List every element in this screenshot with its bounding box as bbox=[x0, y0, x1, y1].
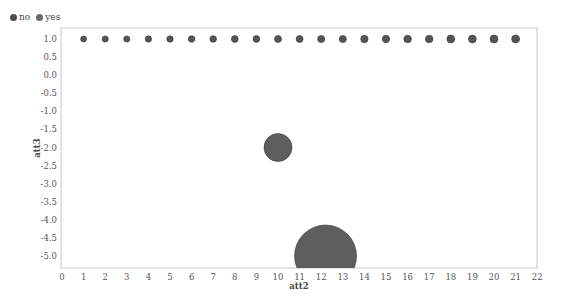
x-tick-label: 4 bbox=[146, 272, 151, 282]
y-tick-label: -2.5 bbox=[41, 161, 57, 171]
data-point-no[interactable] bbox=[447, 35, 455, 43]
data-point-no[interactable] bbox=[404, 35, 412, 43]
x-tick-label: 15 bbox=[381, 272, 392, 282]
x-tick-label: 5 bbox=[167, 272, 172, 282]
data-point-no[interactable] bbox=[210, 36, 217, 43]
data-point-no[interactable] bbox=[318, 35, 325, 42]
y-tick-label: -1.5 bbox=[41, 124, 57, 134]
x-tick-label: 16 bbox=[402, 272, 413, 282]
y-tick-label: -0.5 bbox=[41, 88, 57, 98]
x-tick-label: 20 bbox=[489, 272, 500, 282]
scatter-plot: 012345678910111213141516171819202122 1.0… bbox=[0, 0, 566, 301]
x-tick-label: 9 bbox=[254, 272, 259, 282]
y-tick-label: 0.5 bbox=[43, 52, 57, 62]
x-tick-label: 21 bbox=[510, 272, 521, 282]
y-tick-label: -4.5 bbox=[41, 233, 57, 243]
y-tick-label: -5.0 bbox=[41, 251, 57, 261]
y-axis: 1.00.50.0-0.5-1.0-1.5-2.0-2.5-3.0-3.5-4.… bbox=[41, 34, 57, 261]
y-tick-label: -3.0 bbox=[41, 179, 57, 189]
data-point-no[interactable] bbox=[490, 35, 498, 43]
data-point-no[interactable] bbox=[167, 36, 173, 42]
x-tick-label: 3 bbox=[124, 272, 129, 282]
data-point-no[interactable] bbox=[425, 35, 433, 43]
y-tick-label: -3.5 bbox=[41, 197, 57, 207]
data-point-no[interactable] bbox=[382, 35, 389, 42]
data-point-no[interactable] bbox=[339, 35, 346, 42]
x-tick-label: 12 bbox=[316, 272, 327, 282]
data-point-no[interactable] bbox=[361, 35, 368, 42]
x-tick-label: 14 bbox=[359, 272, 370, 282]
x-tick-label: 19 bbox=[467, 272, 478, 282]
data-point-no[interactable] bbox=[512, 35, 520, 43]
x-tick-label: 7 bbox=[210, 272, 215, 282]
x-tick-label: 8 bbox=[232, 272, 237, 282]
data-point-no[interactable] bbox=[231, 36, 238, 43]
x-tick-label: 17 bbox=[424, 272, 435, 282]
data-point-no[interactable] bbox=[102, 36, 108, 42]
x-tick-label: 18 bbox=[445, 272, 456, 282]
plot-area bbox=[61, 28, 537, 268]
x-tick-label: 10 bbox=[273, 272, 284, 282]
x-tick-label: 2 bbox=[102, 272, 107, 282]
x-tick-label: 0 bbox=[59, 272, 64, 282]
x-axis-label: att2 bbox=[289, 281, 308, 291]
y-tick-label: -2.0 bbox=[41, 143, 57, 153]
y-tick-label: 0.0 bbox=[43, 70, 57, 80]
data-point-no[interactable] bbox=[275, 36, 282, 43]
data-point-no[interactable] bbox=[253, 36, 260, 43]
data-point-yes[interactable] bbox=[264, 134, 292, 162]
y-tick-label: -1.0 bbox=[41, 106, 57, 116]
x-tick-label: 1 bbox=[81, 272, 86, 282]
x-tick-label: 6 bbox=[189, 272, 194, 282]
x-tick-label: 13 bbox=[337, 272, 348, 282]
data-point-no[interactable] bbox=[188, 36, 195, 43]
y-tick-label: 1.0 bbox=[43, 34, 57, 44]
data-point-no[interactable] bbox=[296, 36, 303, 43]
data-point-no[interactable] bbox=[469, 35, 477, 43]
y-tick-label: -4.0 bbox=[41, 215, 57, 225]
data-point-no[interactable] bbox=[124, 36, 130, 42]
data-point-no[interactable] bbox=[145, 36, 151, 42]
x-tick-label: 22 bbox=[532, 272, 543, 282]
y-axis-label: att3 bbox=[32, 138, 42, 157]
data-point-no[interactable] bbox=[81, 36, 87, 42]
